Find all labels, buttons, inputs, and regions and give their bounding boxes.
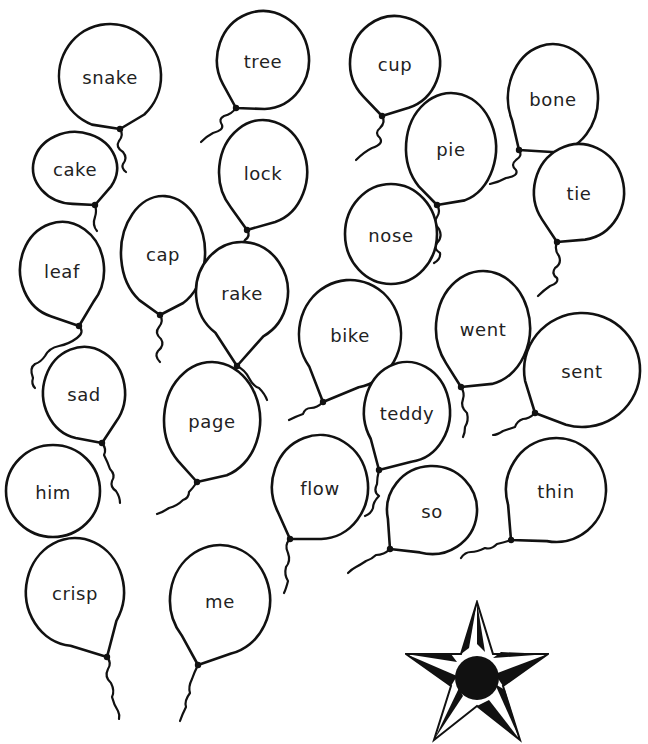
star-icon [405,600,549,744]
balloon-knot [458,384,464,390]
balloon-knot [233,105,239,111]
balloon-word[interactable]: tie [567,185,592,203]
balloon-string [102,443,120,503]
balloon-word[interactable]: tree [244,53,283,71]
balloon-knot [554,239,560,245]
balloon-string [356,116,384,160]
balloon-string [157,482,197,514]
balloon-knot [376,467,382,473]
balloon-word[interactable]: nose [368,227,413,245]
balloon-thin [461,438,606,558]
balloon-word[interactable]: went [460,321,507,339]
star-shape [406,602,548,740]
balloon-string [289,402,323,420]
balloon-word[interactable]: cake [53,161,97,179]
balloon-string [180,665,198,721]
balloon-knot [76,323,82,329]
balloon-knot [195,662,201,668]
balloon-crisp [26,538,124,719]
balloon-cap [121,196,205,362]
balloon-knot [244,227,250,233]
balloon-string [461,540,511,558]
star-center-dot [455,656,499,700]
balloon-knot [117,126,123,132]
balloon-knot [194,479,200,485]
balloon-cake [33,132,117,231]
balloon-tie [534,144,624,296]
balloon-word[interactable]: bike [330,327,370,345]
balloon-word[interactable]: cap [146,246,180,264]
balloon-string [156,315,162,362]
balloon-word[interactable]: teddy [380,405,435,423]
balloon-me [170,545,270,721]
balloon-word[interactable]: sent [561,363,602,381]
balloon-word[interactable]: page [188,413,235,431]
balloon-word[interactable]: sad [67,386,101,404]
balloon-word[interactable]: so [421,503,443,521]
balloon-knot [92,202,98,208]
balloon-string [348,549,390,573]
balloon-string [493,413,535,435]
balloon-word[interactable]: him [35,484,71,502]
balloon-word[interactable]: bone [529,91,576,109]
balloon-knot [157,312,163,318]
balloon-word[interactable]: crisp [52,585,98,603]
balloon-knot [379,113,385,119]
balloon-word[interactable]: snake [82,69,138,87]
balloon-knot [387,546,393,552]
balloon-knot [287,536,293,542]
balloon-knot [99,440,105,446]
balloon-knot [320,399,326,405]
balloon-knot [532,410,538,416]
balloon-string [118,129,126,172]
worksheet-page: snaketreecupbonecakelockpietiecapnoselea… [0,0,648,744]
balloon-string [94,205,97,231]
balloon-string [538,242,560,296]
balloon-string [461,387,468,437]
balloon-word[interactable]: pie [436,141,465,159]
balloon-lock [219,120,307,250]
balloon-art [0,0,648,744]
balloon-word[interactable]: lock [244,165,283,183]
balloon-word[interactable]: leaf [44,263,80,281]
balloon-string [284,539,290,593]
balloon-knot [434,202,440,208]
balloon-knot [508,537,514,543]
balloon-word[interactable]: flow [300,480,339,498]
balloon-knot [104,654,110,660]
balloon-word[interactable]: me [205,593,235,611]
balloon-knot [516,147,522,153]
balloon-word[interactable]: thin [537,483,574,501]
balloon-page [157,362,260,514]
balloon-word[interactable]: rake [221,285,263,303]
balloon-word[interactable]: cup [378,56,413,74]
balloon-string [107,657,120,719]
